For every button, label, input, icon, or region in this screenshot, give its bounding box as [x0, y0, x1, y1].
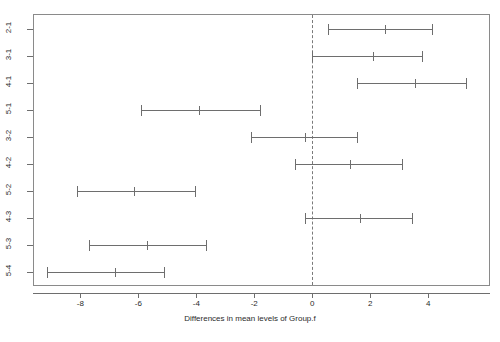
- x-tick-4: [428, 293, 429, 298]
- x-tick--2: [254, 293, 255, 298]
- y-tick-4-1: [27, 83, 33, 84]
- y-tick-label-wrap-5-4: 5-4: [0, 266, 27, 278]
- x-tick--4: [196, 293, 197, 298]
- y-tick-label-4-3: 4-3: [4, 202, 13, 232]
- x-tick-label-0: 0: [300, 299, 324, 308]
- y-tick-label-wrap-5-1: 5-1: [0, 104, 27, 116]
- y-tick-2-1: [27, 29, 33, 30]
- y-tick-label-3-1: 3-1: [4, 40, 13, 70]
- x-axis-line: [33, 293, 490, 294]
- x-tick--6: [138, 293, 139, 298]
- y-tick-5-2: [27, 191, 33, 192]
- y-tick-label-5-1: 5-1: [4, 94, 13, 124]
- y-tick-5-4: [27, 272, 33, 273]
- y-tick-4-3: [27, 218, 33, 219]
- y-axis-line: [33, 14, 34, 286]
- tukey-hsd-plot: 2-13-14-15-13-24-25-24-35-35-4 -8-6-4-20…: [0, 0, 500, 342]
- y-tick-label-wrap-5-3: 5-3: [0, 239, 27, 251]
- plot-panel-frame: [33, 14, 490, 286]
- y-tick-label-wrap-4-3: 4-3: [0, 212, 27, 224]
- y-tick-label-wrap-2-1: 2-1: [0, 23, 27, 35]
- y-tick-label-5-2: 5-2: [4, 175, 13, 205]
- zero-reference-line: [312, 15, 313, 285]
- y-tick-5-1: [27, 110, 33, 111]
- x-tick-label-4: 4: [416, 299, 440, 308]
- y-tick-5-3: [27, 245, 33, 246]
- y-tick-4-2: [27, 164, 33, 165]
- y-tick-label-3-2: 3-2: [4, 121, 13, 151]
- y-tick-label-wrap-3-1: 3-1: [0, 50, 27, 62]
- x-tick-label--8: -8: [68, 299, 92, 308]
- x-tick-0: [312, 293, 313, 298]
- x-tick--8: [80, 293, 81, 298]
- y-tick-label-5-4: 5-4: [4, 256, 13, 286]
- y-tick-3-2: [27, 137, 33, 138]
- y-tick-label-5-3: 5-3: [4, 229, 13, 259]
- x-axis-title: Differences in mean levels of Group.f: [0, 314, 500, 323]
- y-tick-label-wrap-5-2: 5-2: [0, 185, 27, 197]
- x-tick-label--4: -4: [184, 299, 208, 308]
- y-tick-label-wrap-3-2: 3-2: [0, 131, 27, 143]
- y-tick-3-1: [27, 56, 33, 57]
- x-tick-label-2: 2: [358, 299, 382, 308]
- y-tick-label-wrap-4-1: 4-1: [0, 77, 27, 89]
- y-tick-label-4-1: 4-1: [4, 67, 13, 97]
- y-tick-label-4-2: 4-2: [4, 148, 13, 178]
- y-tick-label-2-1: 2-1: [4, 13, 13, 43]
- y-tick-label-wrap-4-2: 4-2: [0, 158, 27, 170]
- x-tick-label--2: -2: [242, 299, 266, 308]
- x-tick-2: [370, 293, 371, 298]
- x-tick-label--6: -6: [126, 299, 150, 308]
